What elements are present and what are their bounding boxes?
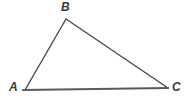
triangle-side-bc (66, 19, 168, 88)
triangle-side-ab (25, 19, 66, 90)
triangle-diagram (0, 0, 192, 103)
vertex-label-c: C (172, 81, 181, 93)
vertex-label-b: B (61, 1, 70, 13)
vertex-label-a: A (9, 81, 18, 93)
geometry-figure: A B C (0, 0, 192, 103)
triangle-side-ac (23, 88, 168, 90)
